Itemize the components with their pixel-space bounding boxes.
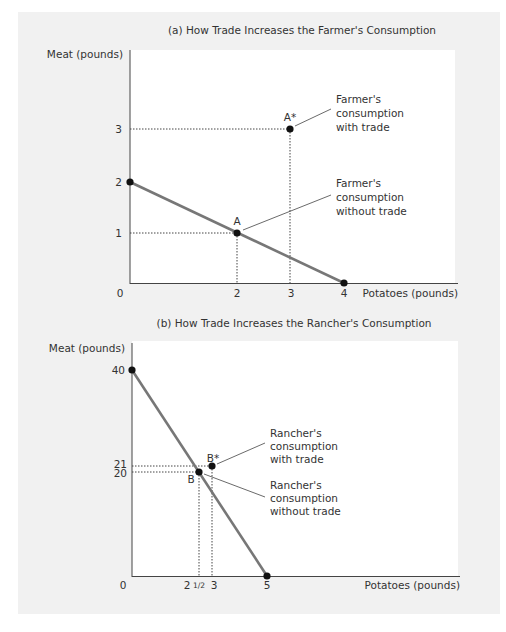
chart-b-ytick-40: 40 — [112, 364, 125, 376]
svg-text:with trade: with trade — [336, 121, 390, 133]
svg-text:2: 2 — [184, 579, 191, 591]
chart-a-origin: 0 — [117, 287, 124, 299]
chart-a: (a) How Trade Increases the Farmer's Con… — [47, 24, 458, 299]
chart-b-xtick-5: 5 — [264, 579, 271, 591]
chart-a-xtick-3: 3 — [288, 287, 295, 299]
svg-text:Farmer's: Farmer's — [336, 93, 381, 105]
svg-text:Farmer's: Farmer's — [336, 177, 381, 189]
chart-a-xtick-2: 2 — [234, 287, 241, 299]
chart-a-point-A-star — [286, 125, 293, 132]
chart-a-xtick-4: 4 — [341, 287, 348, 299]
chart-a-point-A — [233, 229, 240, 236]
chart-b: (b) How Trade Increases the Rancher's Co… — [49, 317, 460, 591]
svg-text:consumption: consumption — [336, 191, 404, 203]
svg-text:with trade: with trade — [270, 453, 324, 465]
chart-a-point-ymax — [126, 178, 133, 185]
chart-b-ytick-20: 20 — [114, 467, 127, 479]
chart-a-label-A-star: A* — [284, 111, 296, 123]
chart-a-ytick-2: 2 — [115, 176, 122, 188]
chart-a-ytick-1: 1 — [115, 227, 122, 239]
chart-b-point-ymax — [128, 366, 135, 373]
svg-text:consumption: consumption — [270, 440, 338, 452]
chart-b-point-xmax — [263, 572, 270, 579]
svg-text:without trade: without trade — [336, 205, 407, 217]
svg-text:Rancher's: Rancher's — [270, 479, 322, 491]
chart-b-x-label: Potatoes (pounds) — [365, 579, 460, 591]
chart-b-title: (b) How Trade Increases the Rancher's Co… — [157, 317, 432, 329]
chart-b-y-label: Meat (pounds) — [49, 342, 125, 354]
chart-b-label-B-star: B* — [207, 452, 219, 464]
chart-b-xtick-3: 3 — [211, 579, 218, 591]
svg-text:Rancher's: Rancher's — [270, 427, 322, 439]
chart-b-label-B: B — [187, 473, 194, 485]
svg-text:1/2: 1/2 — [193, 581, 205, 590]
chart-b-xtick-2-half: 2 1/2 — [184, 579, 206, 591]
svg-text:without trade: without trade — [270, 505, 341, 517]
chart-b-point-B — [195, 468, 202, 475]
chart-a-ytick-3: 3 — [115, 123, 122, 135]
chart-a-title: (a) How Trade Increases the Farmer's Con… — [168, 24, 436, 36]
svg-text:consumption: consumption — [270, 492, 338, 504]
chart-a-point-xmax — [340, 279, 347, 286]
chart-a-x-label: Potatoes (pounds) — [363, 287, 458, 299]
chart-a-y-label: Meat (pounds) — [47, 48, 123, 60]
chart-a-plot-area — [130, 50, 455, 283]
chart-b-origin: 0 — [120, 579, 127, 591]
svg-text:consumption: consumption — [336, 107, 404, 119]
chart-a-label-A: A — [233, 215, 241, 227]
figure: (a) How Trade Increases the Farmer's Con… — [0, 0, 506, 632]
